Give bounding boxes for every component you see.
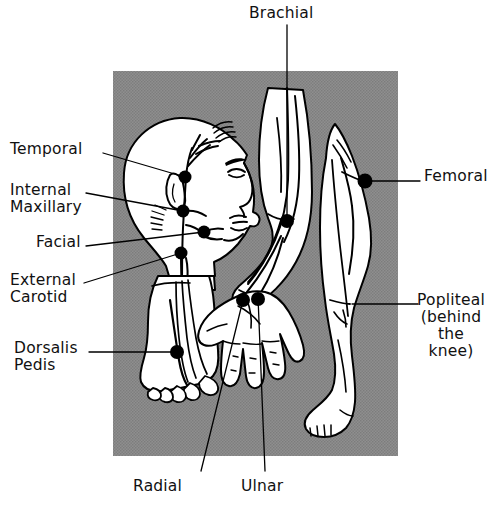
label-femoral: Femoral xyxy=(424,168,488,185)
pulse-point-brachial xyxy=(280,214,294,228)
toe-5 xyxy=(148,388,161,400)
label-dorsalis-pedis: Dorsalis Pedis xyxy=(14,340,78,374)
label-temporal: Temporal xyxy=(10,141,83,158)
pulse-points-diagram: Temporal Internal Maxillary Facial Exter… xyxy=(0,0,499,505)
pulse-point-ulnar xyxy=(251,292,265,306)
diagram-canvas xyxy=(0,0,499,505)
label-internal-maxillary: Internal Maxillary xyxy=(10,182,82,216)
pulse-point-facial xyxy=(198,226,211,239)
pulse-point-external-carotid xyxy=(175,247,188,260)
pulse-point-internal-maxillary xyxy=(177,205,190,218)
label-ulnar: Ulnar xyxy=(241,478,283,495)
label-popliteal: Popliteal (behind the knee) xyxy=(408,292,494,360)
pulse-point-radial xyxy=(236,293,250,307)
label-brachial: Brachial xyxy=(249,5,314,22)
label-facial: Facial xyxy=(36,234,81,251)
label-radial: Radial xyxy=(133,478,182,495)
pulse-point-dorsalis-pedis xyxy=(170,345,184,359)
pulse-point-femoral xyxy=(358,174,373,189)
label-external-carotid: External Carotid xyxy=(10,272,76,306)
pulse-point-temporal xyxy=(179,171,192,184)
